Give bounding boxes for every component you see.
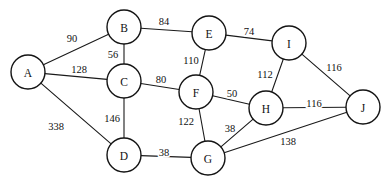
graph-edge-b-e [141, 28, 192, 32]
node-label-b: B [120, 22, 128, 34]
graph-node-c[interactable]: C [107, 64, 141, 98]
graph-diagram: 9090128128338338565684841461468080110110… [0, 0, 388, 189]
graph-node-d[interactable]: D [107, 138, 141, 172]
edge-weight-label-e-i: 74 [244, 26, 255, 37]
edge-weight-label-h-j: 116 [306, 98, 321, 109]
edge-weight-label-h-i: 112 [257, 69, 272, 80]
graph-edge-a-d [41, 83, 111, 144]
graph-edge-f-g [199, 109, 205, 142]
graph-node-h[interactable]: H [249, 91, 283, 125]
edge-weight-label-b-c: 56 [108, 49, 119, 60]
graph-node-e[interactable]: E [192, 16, 226, 50]
node-label-h: H [262, 103, 270, 115]
edge-weight-label-g-j: 138 [280, 136, 296, 147]
edge-weight-label-e-f: 110 [183, 55, 198, 66]
edge-weight-label-b-e: 84 [159, 16, 170, 27]
node-label-d: D [120, 150, 128, 162]
edge-weight-label-a-c: 128 [71, 64, 87, 75]
edge-weight-label-f-g: 122 [178, 116, 194, 127]
edge-weight-label-a-d: 338 [48, 121, 64, 132]
edge-weight-label-a-b: 90 [67, 33, 78, 44]
graph-node-j[interactable]: J [346, 90, 380, 124]
graph-edge-i-j [302, 54, 350, 96]
node-label-i: I [287, 38, 291, 50]
graph-edge-h-i [272, 59, 284, 92]
edge-weight-label-g-h: 38 [225, 123, 236, 134]
graph-canvas: 9090128128338338565684841461468080110110… [0, 0, 388, 189]
edge-weight-label-d-g: 38 [159, 147, 170, 158]
node-label-j: J [361, 102, 366, 114]
graph-node-a[interactable]: A [11, 55, 45, 89]
edge-weight-label-f-h: 50 [227, 88, 238, 99]
graph-edge-g-j [224, 112, 347, 152]
graph-node-b[interactable]: B [107, 10, 141, 44]
graph-edge-e-f [200, 50, 206, 76]
edge-weight-label-c-d: 146 [104, 113, 120, 124]
node-label-e: E [205, 28, 212, 40]
node-label-c: C [120, 76, 128, 88]
graph-node-g[interactable]: G [191, 141, 225, 175]
edge-weight-label-i-j: 116 [326, 62, 341, 73]
node-label-a: A [24, 67, 33, 79]
graph-node-f[interactable]: F [179, 75, 213, 109]
edge-weight-label-c-f: 80 [156, 74, 167, 85]
graph-node-i[interactable]: I [272, 26, 306, 60]
node-label-g: G [204, 153, 212, 165]
node-label-f: F [193, 87, 199, 99]
